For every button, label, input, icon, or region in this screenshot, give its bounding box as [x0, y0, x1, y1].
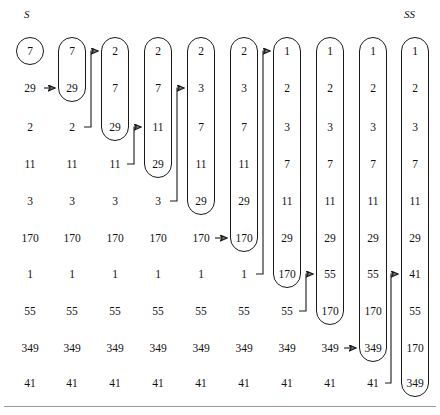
array-cell: 2	[284, 82, 290, 94]
array-cell: 41	[109, 377, 121, 389]
arrow-2-into-col2	[84, 51, 98, 127]
array-cell: 11	[238, 158, 249, 170]
array-cell: 170	[63, 232, 80, 244]
array-cell: 55	[238, 305, 250, 317]
array-cell: 170	[149, 232, 166, 244]
array-cell: 349	[63, 342, 80, 354]
array-cell: 170	[278, 268, 295, 280]
array-cell: 3	[284, 121, 290, 133]
array-cell: 170	[21, 232, 38, 244]
array-cell: 11	[409, 195, 420, 207]
arrow-1-into-col6	[256, 51, 270, 274]
array-cell: 349	[192, 342, 209, 354]
array-cell: 41	[367, 377, 379, 389]
array-cell: 7	[112, 82, 118, 94]
array-cell: 41	[195, 377, 207, 389]
array-cell: 349	[406, 377, 423, 389]
array-cell: 2	[27, 121, 33, 133]
array-cell: 2	[69, 121, 75, 133]
array-cell: 41	[24, 377, 36, 389]
array-cell: 349	[235, 342, 252, 354]
array-cell: 55	[281, 305, 293, 317]
array-cell: 7	[198, 121, 204, 133]
array-cell: 29	[281, 232, 293, 244]
array-cell: 1	[112, 268, 118, 280]
array-cell: 2	[155, 45, 161, 57]
array-cell: 3	[27, 195, 33, 207]
array-cell: 170	[235, 232, 252, 244]
array-cell: 55	[324, 268, 336, 280]
array-cell: 55	[109, 305, 121, 317]
array-cell: 3	[198, 82, 204, 94]
array-cell: 55	[367, 268, 379, 280]
array-cell: 11	[324, 195, 335, 207]
array-cell: 2	[112, 45, 118, 57]
array-cell: 7	[284, 158, 290, 170]
array-cell: 7	[412, 158, 418, 170]
bottom-rule	[4, 406, 436, 407]
array-cell: 1	[198, 268, 204, 280]
array-cell: 29	[238, 195, 250, 207]
array-cell: 170	[106, 232, 123, 244]
array-cell: 1	[327, 45, 333, 57]
array-cell: 11	[152, 121, 163, 133]
array-cell: 349	[149, 342, 166, 354]
array-cell: 1	[69, 268, 75, 280]
array-cell: 3	[112, 195, 118, 207]
array-cell: 55	[409, 305, 421, 317]
array-cell: 349	[278, 342, 295, 354]
array-cell: 29	[152, 158, 164, 170]
array-cell: 3	[327, 121, 333, 133]
insertion-sort-figure: S SS 72921131701553494172921131701553494…	[0, 0, 440, 415]
array-cell: 41	[238, 377, 250, 389]
array-cell: 170	[364, 305, 381, 317]
array-cell: 7	[327, 158, 333, 170]
array-cell: 29	[66, 82, 78, 94]
array-cell: 3	[69, 195, 75, 207]
array-cell: 11	[195, 158, 206, 170]
array-cell: 7	[69, 45, 75, 57]
arrow-3-into-col4	[170, 88, 184, 201]
array-cell: 41	[324, 377, 336, 389]
array-cell: 29	[109, 121, 121, 133]
arrow-11-into-col3	[127, 127, 141, 164]
array-cell: 11	[109, 158, 120, 170]
array-cell: 7	[370, 158, 376, 170]
array-cell: 41	[66, 377, 78, 389]
array-cell: 3	[370, 121, 376, 133]
array-cell: 29	[324, 232, 336, 244]
array-cell: 7	[241, 121, 247, 133]
array-cell: 170	[192, 232, 209, 244]
array-cell: 55	[152, 305, 164, 317]
array-cell: 349	[364, 342, 381, 354]
arrow-41-into-col9	[385, 274, 398, 383]
array-cell: 2	[327, 82, 333, 94]
array-cell: 55	[195, 305, 207, 317]
array-cell: 1	[284, 45, 290, 57]
array-cell: 29	[195, 195, 207, 207]
array-cell: 1	[241, 268, 247, 280]
array-cell: 7	[27, 45, 33, 57]
array-cell: 2	[241, 45, 247, 57]
array-cell: 29	[24, 82, 36, 94]
array-cell: 11	[281, 195, 292, 207]
array-cell: 3	[155, 195, 161, 207]
arrow-55-into-col7	[299, 274, 313, 311]
array-cell: 3	[412, 121, 418, 133]
array-cell: 11	[367, 195, 378, 207]
array-cell: 1	[155, 268, 161, 280]
array-cell: 1	[412, 45, 418, 57]
array-cell: 11	[66, 158, 77, 170]
array-cell: 170	[406, 342, 423, 354]
array-cell: 41	[281, 377, 293, 389]
array-cell: 2	[412, 82, 418, 94]
array-cell: 29	[367, 232, 379, 244]
array-cell: 41	[409, 268, 421, 280]
array-cell: 170	[321, 305, 338, 317]
array-cell: 349	[106, 342, 123, 354]
array-cell: 3	[241, 82, 247, 94]
array-cell: 29	[409, 232, 421, 244]
array-cell: 41	[152, 377, 164, 389]
array-cell: 1	[27, 268, 33, 280]
array-cell: 1	[370, 45, 376, 57]
